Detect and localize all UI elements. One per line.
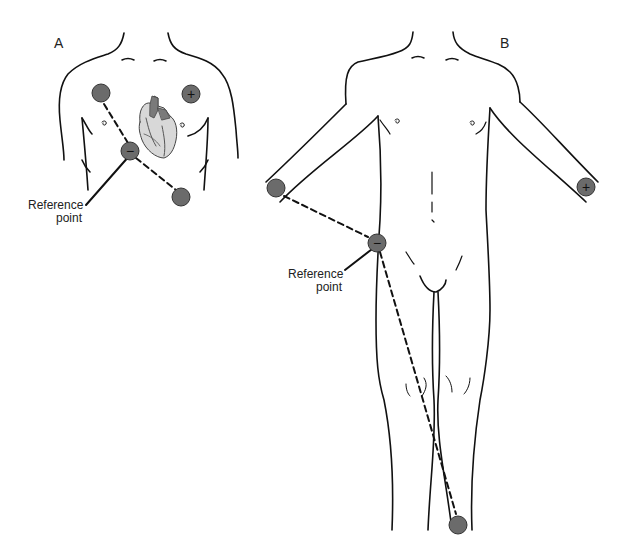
- plus-sign-b: +: [582, 179, 590, 195]
- heart-icon: [139, 96, 177, 158]
- reference-label-b-line2: point: [288, 281, 342, 294]
- reference-label-a: Reference point: [28, 199, 82, 225]
- electrode-lower-left-chest: [172, 188, 190, 206]
- electrode-right-upper-chest: [92, 84, 110, 102]
- reference-label-b: Reference point: [288, 268, 342, 294]
- plus-sign-a: +: [187, 86, 195, 102]
- reference-label-a-line2: point: [28, 212, 82, 225]
- electrode-right-arm: [267, 179, 285, 197]
- minus-sign-a: −: [126, 143, 134, 159]
- minus-sign-b: −: [373, 235, 381, 251]
- panel-label-b: B: [500, 35, 509, 51]
- reference-pointer-a: [86, 155, 130, 205]
- panel-label-a: A: [54, 35, 63, 51]
- electrode-left-ankle: [449, 516, 467, 534]
